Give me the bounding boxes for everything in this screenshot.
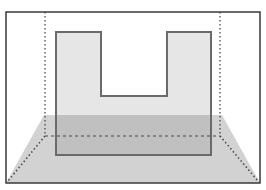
perspective-diagram xyxy=(0,0,266,190)
diagram-canvas xyxy=(0,0,266,190)
